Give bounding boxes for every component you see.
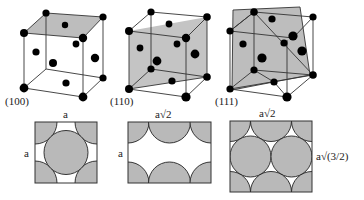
cell-label-100: (100) (5, 95, 29, 108)
plane-111-width-label: a√2 (259, 107, 275, 119)
plane-111-height-label: a√(3/2) (316, 150, 349, 163)
crystal-planes-figure: (100) (110) (0, 0, 364, 200)
plane-110-width-label: a√2 (155, 108, 171, 120)
cell-label-110: (110) (110, 95, 134, 108)
plane-100-width-label: a (63, 108, 68, 120)
plane-110-height-label: a (118, 147, 123, 159)
cell-label-111: (111) (215, 95, 238, 108)
plane-100-height-label: a (24, 147, 29, 159)
